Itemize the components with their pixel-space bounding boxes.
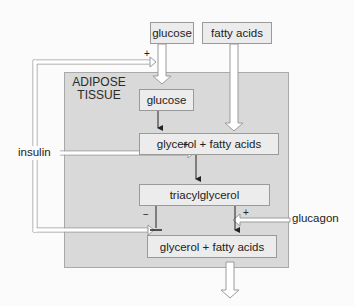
insulin-esterification-plus-sign: + — [183, 140, 189, 150]
adipose-glucose-box: glucose — [139, 89, 194, 111]
blood-fatty-acids-label: fatty acids — [211, 27, 263, 39]
glycerol-fatty-acids-box-1: glycerol + fatty acids — [139, 133, 279, 155]
insulin-label: insulin — [16, 146, 53, 158]
glycerol-fatty-acids-box-2: glycerol + fatty acids — [147, 235, 277, 258]
triacylglycerol-label: triacylglycerol — [170, 189, 240, 201]
glycerol-fatty-acids-label-1: glycerol + fatty acids — [157, 138, 262, 150]
diagram-canvas: ADIPOSE TISSUE — [0, 0, 354, 306]
insulin-lipolysis-minus-sign: − — [143, 210, 149, 220]
glucagon-label: glucagon — [292, 212, 339, 224]
blood-glucose-box: glucose — [150, 22, 194, 44]
glycerol-fatty-acids-label-2: glycerol + fatty acids — [160, 241, 265, 253]
adipose-glucose-label: glucose — [147, 94, 187, 106]
triacylglycerol-box: triacylglycerol — [139, 184, 270, 206]
blood-glucose-label: glucose — [152, 27, 192, 39]
blood-fatty-acids-box: fatty acids — [202, 22, 272, 44]
glucagon-lipolysis-plus-sign: + — [243, 208, 249, 218]
insulin-uptake-plus-sign: + — [144, 49, 150, 59]
